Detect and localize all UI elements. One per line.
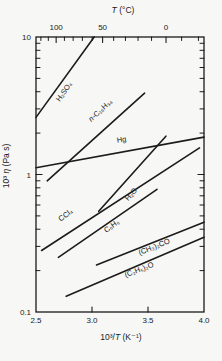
series-label-c6h6: C₆H₆ <box>102 217 121 234</box>
chart-canvas: 0.11102.53.03.54.0100500H₂SO₄n-C₁₆H₃₄HgH… <box>0 0 222 361</box>
y-axis-title: 10³ η (Pa s) <box>1 144 11 189</box>
y-tick-label: 10 <box>22 33 31 42</box>
x-axis-title: 10³/T (K⁻¹) <box>100 332 142 342</box>
top-tick-label: 100 <box>49 23 63 32</box>
series-label-ccl4: CCl₄ <box>57 207 75 224</box>
plot-frame <box>36 37 204 312</box>
top-axis-title: T (°C) <box>112 5 135 15</box>
x-tick-label: 3.0 <box>86 316 98 325</box>
x-tick-label: 3.5 <box>142 316 154 325</box>
series-label-n-c16h34: n-C₁₆H₃₄ <box>87 97 114 123</box>
x-tick-label: 4.0 <box>198 316 210 325</box>
series-line-h2o <box>99 136 166 211</box>
series-line-n-c16h34 <box>47 93 144 181</box>
top-tick-label: 0 <box>164 23 169 32</box>
y-tick-label: 1 <box>27 171 32 180</box>
viscosity-temperature-figure: 0.11102.53.03.54.0100500H₂SO₄n-C₁₆H₃₄HgH… <box>0 0 222 361</box>
x-tick-label: 2.5 <box>30 316 42 325</box>
series-line-h2so4 <box>36 37 94 117</box>
series-label-hg: Hg <box>116 134 127 144</box>
top-tick-label: 50 <box>98 23 107 32</box>
series-label-ether: (C₂H₅)₂O <box>123 260 155 279</box>
series-line-ccl4 <box>42 148 200 251</box>
series-label-h2so4: H₂SO₄ <box>54 80 74 103</box>
